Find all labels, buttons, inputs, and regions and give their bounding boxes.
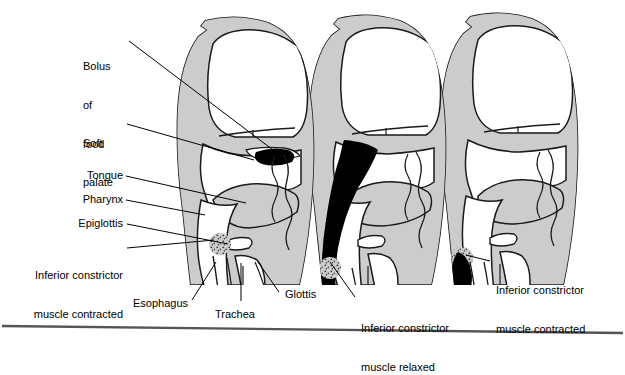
label-icc-left-line1: Inferior constrictor	[8, 269, 123, 282]
label-icr-line1: Inferior constrictor	[361, 322, 449, 335]
epiglottis-2	[358, 236, 385, 249]
cranial-cavity-1	[208, 30, 308, 137]
label-epiglottis: Epiglottis	[23, 217, 123, 230]
label-inferior-constrictor-contracted-left: Inferior constrictor muscle contracted	[8, 243, 123, 347]
cranial-cavity-2	[341, 28, 441, 135]
label-tongue: Tongue	[23, 169, 123, 182]
label-pharynx: Pharynx	[23, 193, 123, 206]
label-trachea: Trachea	[215, 308, 255, 321]
head-stage-1	[177, 16, 315, 300]
label-inferior-constrictor-relaxed: Inferior constrictor muscle relaxed	[361, 296, 449, 375]
constrictor-muscle-stipple-2	[319, 257, 341, 279]
label-icc-right-line1: Inferior constrictor	[496, 284, 585, 297]
label-bolus-of-food-line1: Bolus	[83, 60, 111, 73]
head-stage-2	[309, 14, 447, 300]
cranial-cavity-3	[473, 26, 573, 133]
head-stage-3	[441, 12, 579, 300]
label-soft-palate-line1: Soft	[83, 137, 113, 150]
label-glottis: Glottis	[285, 288, 316, 301]
label-icr-line2: muscle relaxed	[361, 361, 449, 374]
label-esophagus: Esophagus	[108, 297, 188, 310]
epiglottis-3	[490, 234, 517, 247]
label-icc-right-line2: muscle contracted	[496, 323, 585, 336]
label-inferior-constrictor-contracted-right: Inferior constrictor muscle contracted	[496, 258, 585, 362]
label-icc-left-line2: muscle contracted	[8, 308, 123, 321]
